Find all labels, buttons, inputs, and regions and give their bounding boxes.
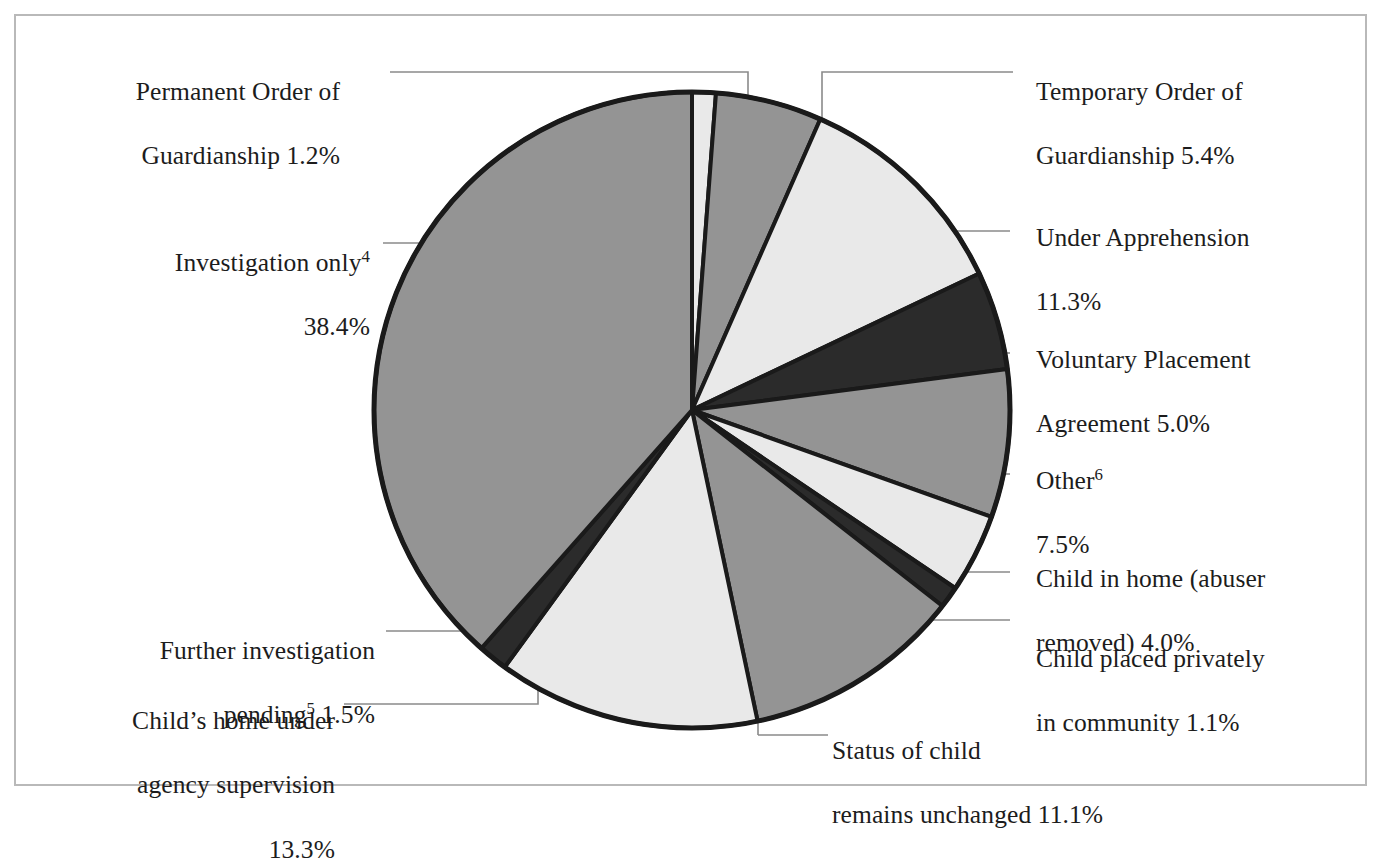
label-line: Temporary Order of <box>1036 77 1243 106</box>
label-voluntary-placement-agreement: Voluntary Placement Agreement 5.0% <box>1036 312 1366 441</box>
label-line: Child placed privately <box>1036 644 1265 673</box>
label-investigation-only: Investigation only4 38.4% <box>40 215 370 344</box>
label-line: remains unchanged 11.1% <box>832 800 1103 829</box>
pie-slices-group <box>374 92 1010 728</box>
label-line: 13.3% <box>269 835 335 862</box>
label-line: Guardianship 5.4% <box>1036 141 1235 170</box>
label-line: in community 1.1% <box>1036 708 1240 737</box>
label-line: Child’s home under <box>132 706 335 735</box>
label-temporary-order-of-guardianship: Temporary Order of Guardianship 5.4% <box>1036 44 1366 173</box>
label-line: Under Apprehension <box>1036 223 1250 252</box>
footnote-marker: 6 <box>1095 465 1104 484</box>
label-line: Other <box>1036 466 1095 495</box>
label-line: agency supervision <box>137 770 335 799</box>
label-line: 38.4% <box>304 312 370 341</box>
label-line: Voluntary Placement <box>1036 345 1251 374</box>
leader-temporary-order <box>822 72 1013 130</box>
label-line: Permanent Order of <box>136 77 340 106</box>
label-permanent-order-of-guardianship: Permanent Order of Guardianship 1.2% <box>40 44 340 173</box>
label-line: Guardianship 1.2% <box>141 141 340 170</box>
label-line: Status of child <box>832 736 981 765</box>
label-line: Further investigation <box>160 636 375 665</box>
label-line: Child in home (abuser <box>1036 564 1265 593</box>
label-child-placed-privately-in-community: Child placed privately in community 1.1% <box>1036 611 1376 740</box>
label-childs-home-under-agency-supervision: Child’s home under agency supervision 13… <box>20 673 335 862</box>
footnote-marker: 4 <box>361 247 370 266</box>
label-under-apprehension: Under Apprehension 11.3% <box>1036 190 1366 319</box>
label-line: Investigation only <box>175 248 362 277</box>
